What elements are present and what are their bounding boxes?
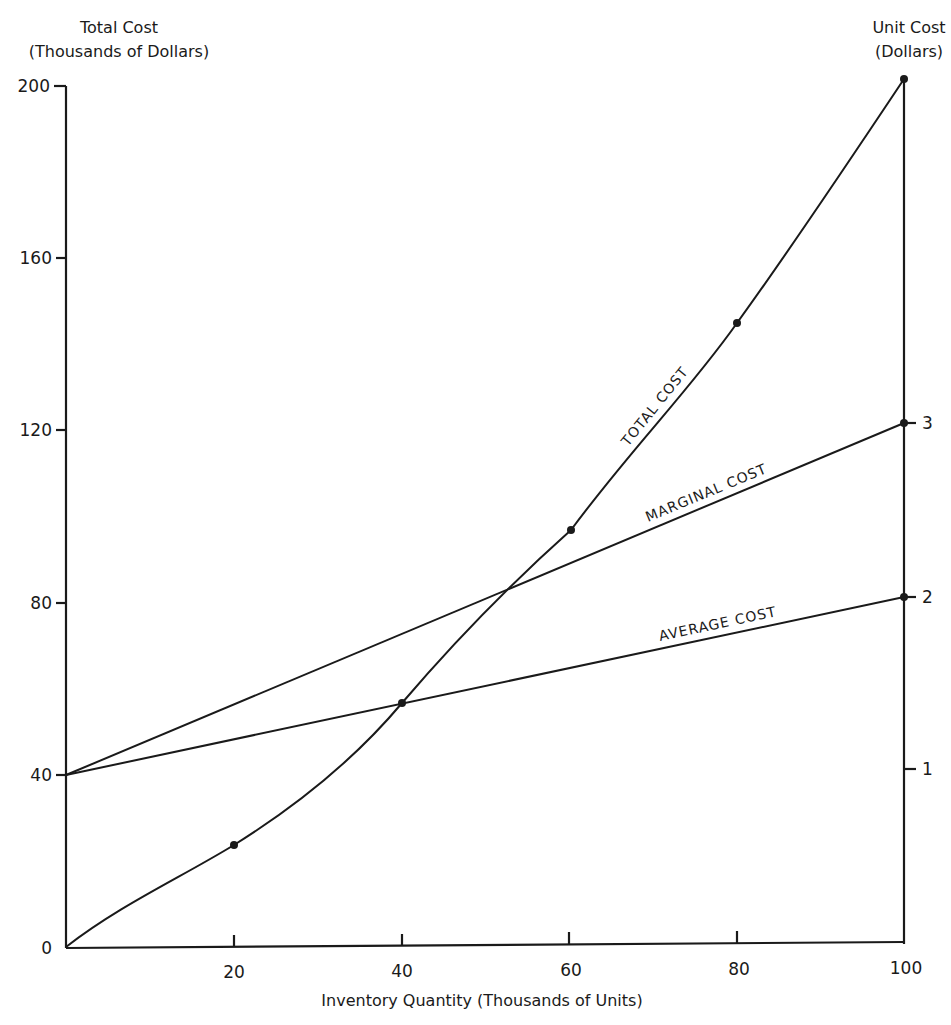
x-tick-40: 40 — [391, 961, 413, 981]
marker-tc-20 — [230, 841, 238, 849]
y-left-tick-40: 40 — [30, 765, 52, 785]
y-left-tick-120: 120 — [20, 420, 52, 440]
marginal-cost-line — [66, 423, 904, 775]
x-tick-100: 100 — [890, 958, 922, 978]
marker-tc-100 — [900, 75, 908, 83]
y-right-tick-2: 2 — [922, 587, 933, 607]
total-cost-label: TOTAL COST — [617, 363, 691, 449]
y-right-tick-1: 1 — [922, 759, 933, 779]
x-axis-line — [66, 942, 904, 948]
marker-ac-100 — [900, 593, 908, 601]
data-markers — [230, 75, 908, 849]
x-tick-20: 20 — [223, 962, 245, 982]
cost-chart: Total Cost (Thousands of Dollars) Unit C… — [0, 0, 951, 1025]
marker-mc-100 — [900, 419, 908, 427]
marker-tc-80 — [733, 319, 741, 327]
y-right-tick-3: 3 — [922, 413, 933, 433]
y-left-tick-200: 200 — [18, 76, 50, 96]
y-left-tick-80: 80 — [30, 593, 52, 613]
x-axis-title: Inventory Quantity (Thousands of Units) — [321, 991, 642, 1010]
y-left-tick-0: 0 — [41, 938, 52, 958]
marker-tc-40 — [398, 699, 406, 707]
marker-tc-60 — [567, 526, 575, 534]
axes — [54, 80, 916, 948]
right-axis-title-line1: Unit Cost — [872, 18, 945, 37]
right-axis-title-line2: (Dollars) — [875, 42, 943, 61]
left-axis-title-line2: (Thousands of Dollars) — [29, 42, 209, 61]
left-axis-title-line1: Total Cost — [79, 18, 158, 37]
average-cost-line — [66, 597, 904, 775]
average-cost-label: AVERAGE COST — [657, 603, 778, 644]
total-cost-curve — [66, 79, 904, 947]
marginal-cost-label: MARGINAL COST — [643, 460, 769, 524]
y-left-tick-160: 160 — [20, 248, 52, 268]
x-tick-60: 60 — [560, 960, 582, 980]
x-tick-80: 80 — [728, 959, 750, 979]
